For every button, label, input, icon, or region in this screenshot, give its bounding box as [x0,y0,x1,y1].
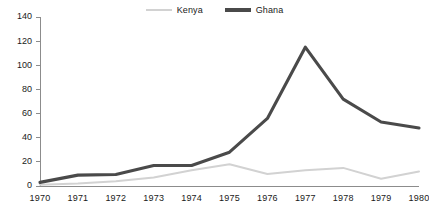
x-axis: 1970197119721973197419751976197719781979… [30,186,429,203]
y-tick-label: 100 [17,60,32,70]
x-tick-label: 1973 [143,193,164,203]
y-tick-label: 120 [17,36,32,46]
x-tick-label: 1974 [181,193,202,203]
y-tick-label: 80 [22,84,32,94]
x-tick-label: 1978 [333,193,354,203]
x-tick-label: 1970 [30,193,51,203]
y-axis: 020406080100120140 [17,11,40,190]
y-tick-label: 0 [27,180,32,190]
x-tick-label: 1972 [105,193,126,203]
y-tick-label: 60 [22,108,32,118]
plot-area: 020406080100120140 197019711972197319741… [0,0,429,212]
data-series-group [40,47,419,185]
x-tick-label: 1975 [219,193,240,203]
x-tick-label: 1977 [295,193,316,203]
x-tick-label: 1976 [257,193,278,203]
series-line-ghana [40,47,419,182]
x-tick-label: 1979 [371,193,392,203]
x-tick-label: 1971 [67,193,88,203]
y-tick-label: 40 [22,132,32,142]
y-tick-label: 20 [22,156,32,166]
x-tick-label: 1980 [409,193,429,203]
line-chart: Kenya Ghana 020406080100120140 197019711… [0,0,429,212]
y-tick-label: 140 [17,11,32,21]
